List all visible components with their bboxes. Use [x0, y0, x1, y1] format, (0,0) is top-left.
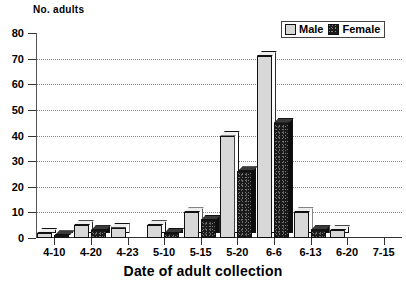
y-axis-tick-label: 0 [0, 232, 24, 244]
y-axis-tick [28, 212, 36, 213]
bar-male [37, 233, 52, 238]
y-axis-tick [28, 84, 36, 85]
x-axis-tick-label: 6-20 [336, 246, 358, 258]
bar-side-female [288, 118, 293, 233]
legend-label-female: Female [342, 24, 380, 35]
bar-chart: No. adults 01020304050607080 4-104-204-2… [0, 0, 406, 290]
bar-female [201, 220, 216, 238]
y-axis-tick-label: 70 [0, 53, 24, 65]
bar-female [91, 230, 106, 238]
bar-male [330, 230, 345, 238]
y-axis-tick [28, 238, 36, 239]
legend: Male Female [281, 21, 385, 38]
x-axis-tick [274, 238, 275, 245]
y-axis-tick-label: 50 [0, 104, 24, 116]
gridline [37, 59, 402, 60]
x-axis-tick-label: 7-15 [373, 246, 395, 258]
y-axis-tick [28, 59, 36, 60]
x-axis-tick-label: 4-10 [43, 246, 65, 258]
x-axis-tick-label: 4-23 [116, 246, 138, 258]
y-axis-tick-label: 60 [0, 78, 24, 90]
legend-swatch-female-icon [328, 24, 339, 35]
y-axis-tick-label: 20 [0, 181, 24, 193]
x-axis-tick [91, 238, 92, 245]
x-axis-tick [311, 238, 312, 245]
y-axis-tick [28, 136, 36, 137]
gridline [37, 84, 402, 85]
x-axis-tick [54, 238, 55, 245]
legend-item-female: Female [328, 24, 380, 35]
gridline [37, 110, 402, 111]
x-axis-tick [237, 238, 238, 245]
plot-area [36, 33, 402, 238]
y-axis-tick-label: 10 [0, 206, 24, 218]
y-axis-title: No. adults [33, 4, 84, 15]
legend-item-male: Male [285, 24, 323, 35]
bar-top-female [54, 230, 74, 235]
x-axis-tick [164, 238, 165, 245]
bar-male [147, 225, 162, 238]
x-axis-tick [201, 238, 202, 245]
bar-side-female [251, 166, 256, 233]
y-axis-tick [28, 161, 36, 162]
x-axis-tick-label: 5-20 [226, 246, 248, 258]
bar-male [111, 228, 126, 238]
x-axis-tick-label: 4-20 [80, 246, 102, 258]
x-axis-tick [384, 238, 385, 245]
bar-male [74, 225, 89, 238]
bar-male [294, 212, 309, 238]
x-axis-title: Date of adult collection [0, 263, 406, 279]
bar-male [257, 56, 272, 238]
bar-female [311, 230, 326, 238]
bar-female [237, 171, 252, 238]
bar-female [164, 233, 179, 238]
x-axis-tick-label: 6-13 [299, 246, 321, 258]
x-axis-tick-label: 6-6 [266, 246, 282, 258]
y-axis-tick [28, 110, 36, 111]
legend-label-male: Male [299, 24, 323, 35]
bar-female [54, 235, 69, 238]
legend-swatch-male-icon [285, 24, 296, 35]
y-axis-tick-label: 30 [0, 155, 24, 167]
x-axis-tick [128, 238, 129, 245]
plot-inner [37, 33, 402, 237]
bar-male [220, 136, 235, 239]
y-axis-tick [28, 187, 36, 188]
x-axis-tick [347, 238, 348, 245]
y-axis-tick [28, 33, 36, 34]
bar-male [184, 212, 199, 238]
y-axis-tick-label: 80 [0, 27, 24, 39]
bar-female [274, 123, 289, 238]
x-axis-tick-label: 5-15 [190, 246, 212, 258]
x-axis-tick-label: 5-10 [153, 246, 175, 258]
y-axis-tick-label: 40 [0, 130, 24, 142]
